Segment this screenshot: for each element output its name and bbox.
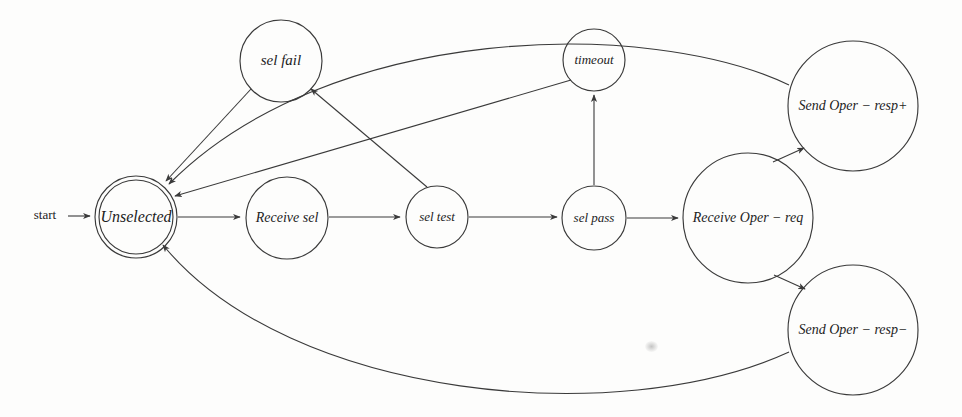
node-receive-oper-req[interactable]: Receive Oper − req — [683, 153, 813, 283]
edge-sel-test-to-sel-fail — [311, 89, 427, 187]
nodes-layer: Unselected sel fail Receive sel sel test… — [95, 20, 918, 395]
node-label-unselected: Unselected — [100, 208, 172, 225]
node-sel-pass[interactable]: sel pass — [562, 186, 626, 250]
node-label-send-oper-resp-minus: Send Oper − resp− — [799, 322, 908, 337]
node-receive-sel[interactable]: Receive sel — [246, 177, 328, 259]
node-unselected[interactable]: Unselected — [95, 176, 177, 258]
node-label-sel-test: sel test — [419, 209, 455, 224]
edge-send-oper-resp-minus-to-unselected — [163, 245, 789, 393]
node-sel-test[interactable]: sel test — [406, 186, 468, 248]
node-label-receive-sel: Receive sel — [255, 210, 319, 225]
start-marker: start — [34, 207, 57, 222]
node-timeout[interactable]: timeout — [563, 29, 625, 91]
state-diagram: Unselected sel fail Receive sel sel test… — [0, 0, 962, 417]
node-label-sel-fail: sel fail — [261, 52, 301, 68]
node-label-timeout: timeout — [575, 52, 614, 67]
node-send-oper-resp-plus[interactable]: Send Oper − resp+ — [788, 41, 918, 171]
edge-sel-fail-to-unselected — [166, 89, 251, 181]
node-label-send-oper-resp-plus: Send Oper − resp+ — [799, 98, 908, 113]
node-send-oper-resp-minus[interactable]: Send Oper − resp− — [788, 265, 918, 395]
edge-receive-oper-req-to-send-oper-resp-minus — [774, 275, 805, 289]
start-label: start — [34, 207, 57, 222]
node-label-receive-oper-req: Receive Oper − req — [692, 210, 803, 225]
node-label-sel-pass: sel pass — [574, 210, 615, 225]
node-sel-fail[interactable]: sel fail — [240, 20, 322, 102]
edge-timeout-to-unselected — [175, 80, 571, 196]
diagram-canvas: Unselected sel fail Receive sel sel test… — [0, 0, 962, 417]
